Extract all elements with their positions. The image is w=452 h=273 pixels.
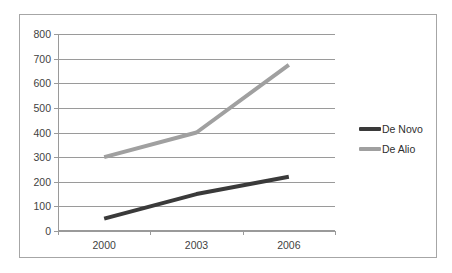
x-tick-label: 2006	[277, 240, 300, 251]
chart-frame: 0100200300400500600700800 200020032006 D…	[19, 14, 437, 258]
x-tick	[243, 231, 244, 235]
legend-label: De Alio	[382, 144, 415, 155]
y-tick-label: 500	[33, 103, 51, 114]
y-tick-label: 200	[33, 177, 51, 188]
x-tick	[150, 231, 151, 235]
series-plot	[58, 34, 335, 231]
y-tick-label: 400	[33, 127, 51, 138]
series-line	[104, 177, 289, 219]
legend-item[interactable]: De Alio	[359, 139, 437, 159]
plot-area: 0100200300400500600700800 200020032006	[58, 34, 335, 231]
series-line	[104, 65, 289, 157]
x-tick-label: 2000	[92, 240, 115, 251]
y-gridline	[58, 231, 335, 232]
legend-line-swatch-icon	[359, 127, 381, 131]
y-tick-label: 600	[33, 78, 51, 89]
y-tick-label: 300	[33, 152, 51, 163]
legend-line-swatch-icon	[359, 147, 381, 151]
legend-label: De Novo	[382, 124, 423, 135]
legend-item[interactable]: De Novo	[359, 119, 437, 139]
y-tick-label: 100	[33, 201, 51, 212]
chart-legend: De NovoDe Alio	[359, 119, 437, 159]
y-tick-label: 700	[33, 53, 51, 64]
y-tick-label: 800	[33, 29, 51, 40]
x-tick	[58, 231, 59, 235]
x-tick	[335, 231, 336, 235]
x-tick-label: 2003	[185, 240, 208, 251]
y-tick-label: 0	[45, 226, 51, 237]
